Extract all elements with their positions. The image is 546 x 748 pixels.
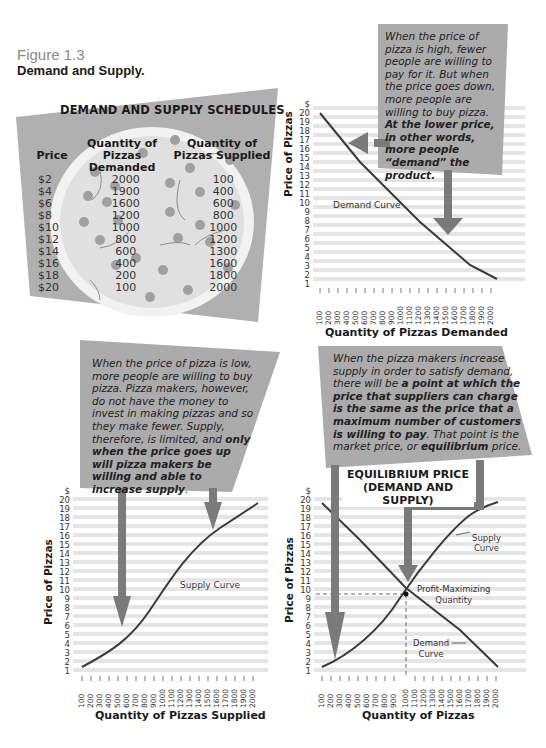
equilibrium-callout: When the pizza makers increase supply in…	[333, 352, 525, 453]
svg-text:200: 200	[324, 310, 333, 325]
col-header-demanded: Quantity of Pizzas Demanded	[72, 138, 172, 174]
profit-maximizing-label: Profit-Maximizing Quantity	[417, 584, 490, 606]
schedule-cell-demanded: 100	[77, 282, 175, 294]
demand-callout: When the price of pizza is high, fewer p…	[385, 30, 503, 181]
svg-text:1300: 1300	[423, 306, 432, 325]
supply-curve-label: Supply Curve	[180, 580, 240, 590]
svg-text:800: 800	[378, 310, 387, 325]
svg-text:1800: 1800	[468, 306, 477, 325]
svg-text:500: 500	[113, 693, 122, 708]
svg-text:1100: 1100	[167, 689, 176, 708]
svg-text:1400: 1400	[194, 689, 203, 708]
svg-text:1900: 1900	[239, 689, 248, 708]
eq-supply-curve-label: Supply Curve	[472, 533, 501, 553]
schedule-row: $41900400	[32, 186, 272, 198]
svg-text:700: 700	[371, 693, 380, 708]
schedule-title: DEMAND AND SUPPLY SCHEDULES	[60, 103, 285, 117]
svg-text:700: 700	[131, 693, 140, 708]
svg-text:600: 600	[362, 693, 371, 708]
supply-x-axis-label: Quantity of Pizzas Supplied	[95, 709, 266, 722]
demand-y-axis-label: Price of Pizzas	[282, 111, 294, 197]
svg-text:1800: 1800	[473, 689, 482, 708]
svg-text:1600: 1600	[455, 689, 464, 708]
x-axis-ticks: 100200 300400 500600 700800 9001000 1100…	[315, 306, 495, 325]
svg-text:400: 400	[344, 693, 353, 708]
svg-text:200: 200	[86, 693, 95, 708]
svg-text:600: 600	[122, 693, 131, 708]
svg-text:1800: 1800	[230, 689, 239, 708]
svg-text:2000: 2000	[248, 689, 257, 708]
schedule-cell-supplied: 2000	[175, 282, 273, 294]
svg-text:1500: 1500	[446, 689, 455, 708]
svg-text:1700: 1700	[459, 306, 468, 325]
schedule-row: $201002000	[32, 282, 272, 294]
svg-text:300: 300	[335, 693, 344, 708]
svg-text:1000: 1000	[401, 689, 410, 708]
svg-text:1900: 1900	[477, 306, 486, 325]
svg-text:1400: 1400	[437, 689, 446, 708]
svg-text:1700: 1700	[221, 689, 230, 708]
svg-text:1200: 1200	[414, 306, 423, 325]
svg-text:1100: 1100	[410, 689, 419, 708]
svg-text:1300: 1300	[428, 689, 437, 708]
schedule-row: $61600600	[32, 198, 272, 210]
svg-text:1000: 1000	[396, 306, 405, 325]
eq-demand-curve-label: Demand Curve	[413, 638, 449, 660]
svg-text:1600: 1600	[450, 306, 459, 325]
schedule-row: $22000100	[32, 174, 272, 186]
svg-text:400: 400	[104, 693, 113, 708]
demand-curve-label: Demand Curve	[333, 200, 401, 210]
eq-y-axis-label: Price of Pizzas	[283, 537, 295, 623]
svg-text:100: 100	[77, 693, 86, 708]
svg-text:1100: 1100	[405, 306, 414, 325]
demand-x-axis-label: Quantity of Pizzas Demanded	[325, 326, 508, 339]
svg-text:200: 200	[326, 693, 335, 708]
schedule-cell-price: $20	[32, 282, 77, 294]
svg-text:900: 900	[389, 693, 398, 708]
svg-text:1500: 1500	[441, 306, 450, 325]
svg-text:100: 100	[315, 310, 324, 325]
svg-text:500: 500	[353, 693, 362, 708]
down-arrow-icon	[113, 596, 131, 627]
schedule-table: Price Quantity of Pizzas Demanded Quanti…	[32, 138, 272, 294]
svg-text:100: 100	[317, 693, 326, 708]
svg-text:1500: 1500	[203, 689, 212, 708]
svg-text:1000: 1000	[158, 689, 167, 708]
svg-text:300: 300	[95, 693, 104, 708]
svg-text:900: 900	[149, 693, 158, 708]
svg-text:600: 600	[360, 310, 369, 325]
svg-text:1700: 1700	[464, 689, 473, 708]
equilibrium-point	[404, 592, 409, 597]
svg-text:400: 400	[342, 310, 351, 325]
y-axis-ticks: $ 201918 171615 141312 11109 876 543 21	[299, 99, 310, 289]
col-header-supplied: Quantity of Pizzas Supplied	[172, 138, 272, 174]
svg-text:300: 300	[333, 310, 342, 325]
svg-text:1200: 1200	[419, 689, 428, 708]
equilibrium-chart-title: EQUILIBRIUM PRICE (DEMAND AND SUPPLY)	[342, 468, 474, 507]
svg-text:1: 1	[305, 279, 310, 289]
svg-text:2000: 2000	[486, 306, 495, 325]
svg-text:700: 700	[369, 310, 378, 325]
col-header-price: Price	[32, 138, 72, 174]
supply-y-axis-label: Price of Pizzas	[42, 539, 54, 625]
svg-text:2000: 2000	[491, 689, 500, 708]
svg-text:1: 1	[65, 666, 70, 676]
svg-text:900: 900	[387, 310, 396, 325]
svg-text:1900: 1900	[482, 689, 491, 708]
svg-text:1: 1	[306, 666, 311, 676]
svg-text:1200: 1200	[176, 689, 185, 708]
svg-text:800: 800	[380, 693, 389, 708]
supply-callout: When the price of pizza is low, more peo…	[92, 357, 254, 496]
svg-text:500: 500	[351, 310, 360, 325]
svg-text:1400: 1400	[432, 306, 441, 325]
svg-text:800: 800	[140, 693, 149, 708]
eq-x-axis-label: Quantity of Pizzas	[362, 709, 475, 722]
svg-text:1300: 1300	[185, 689, 194, 708]
svg-text:1600: 1600	[212, 689, 221, 708]
